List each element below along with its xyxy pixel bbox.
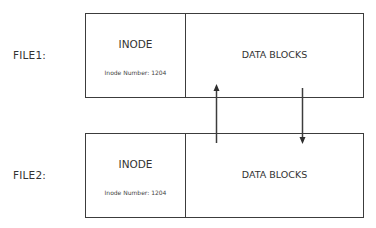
file2-inode-number: Inode Number: 1204 xyxy=(86,189,185,196)
file2-inode-cell: INODE Inode Number: 1204 xyxy=(86,134,186,217)
file2-data-blocks-title: DATA BLOCKS xyxy=(186,169,363,180)
file1-inode-number: Inode Number: 1204 xyxy=(86,69,185,76)
file2-label: FILE2: xyxy=(13,169,46,181)
file1-data-blocks-cell: DATA BLOCKS xyxy=(186,14,363,97)
file1-inode-cell: INODE Inode Number: 1204 xyxy=(86,14,186,97)
file2-box: INODE Inode Number: 1204 DATA BLOCKS xyxy=(85,133,364,218)
file1-label: FILE1: xyxy=(13,49,46,61)
file1-inode-title: INODE xyxy=(86,38,185,50)
file2-inode-title: INODE xyxy=(86,158,185,170)
file2-data-blocks-cell: DATA BLOCKS xyxy=(186,134,363,217)
file1-data-blocks-title: DATA BLOCKS xyxy=(186,49,363,60)
file1-box: INODE Inode Number: 1204 DATA BLOCKS xyxy=(85,13,364,98)
